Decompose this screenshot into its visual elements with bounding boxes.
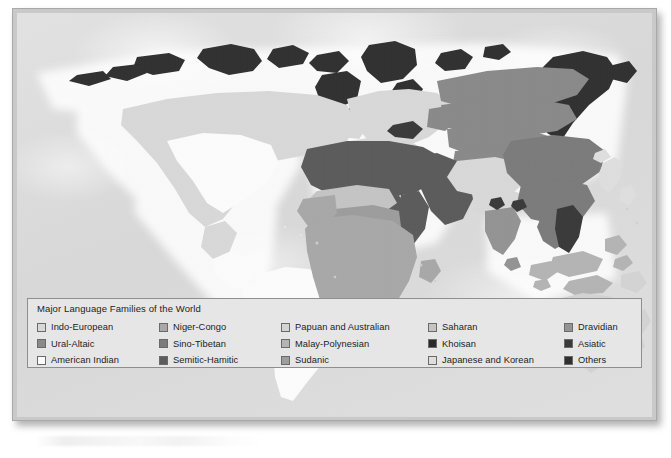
legend-column-4: Saharan Khoisan Japanese and Korean [428,319,534,369]
legend-label: Asiatic [578,339,606,349]
legend-label: Others [578,355,606,365]
legend-item-japanese-and-korean[interactable]: Japanese and Korean [428,352,534,369]
legend-label: Sino-Tibetan [173,339,226,349]
legend-item-papuan-and-australian[interactable]: Papuan and Australian [281,319,390,336]
map-legend: Major Language Families of the World Ind… [27,298,642,368]
legend-item-american-indian[interactable]: American Indian [37,352,119,369]
legend-item-semitic-hamitic[interactable]: Semitic-Hamitic [159,352,238,369]
legend-swatch-icon [159,323,168,332]
legend-item-niger-congo[interactable]: Niger-Congo [159,319,238,336]
legend-label: Semitic-Hamitic [173,355,238,365]
legend-swatch-icon [159,339,168,348]
legend-swatch-icon [428,323,437,332]
legend-column-5: Dravidian Asiatic Others [564,319,618,369]
legend-label: Dravidian [578,322,618,332]
legend-item-ural-altaic[interactable]: Ural-Altaic [37,336,119,353]
legend-title: Major Language Families of the World [37,303,201,314]
region-japan-korea [593,149,637,205]
legend-column-1: Indo-European Ural-Altaic American India… [37,319,119,369]
caption-smudge [36,436,266,446]
legend-label: Japanese and Korean [442,355,534,365]
legend-item-others[interactable]: Others [564,352,618,369]
legend-item-saharan[interactable]: Saharan [428,319,534,336]
legend-swatch-icon [37,323,46,332]
legend-column-3: Papuan and Australian Malay-Polynesian S… [281,319,390,369]
legend-swatch-icon [37,339,46,348]
legend-swatch-icon [281,323,290,332]
legend-label: Ural-Altaic [51,339,94,349]
legend-swatch-icon [159,356,168,365]
legend-item-sudanic[interactable]: Sudanic [281,352,390,369]
legend-label: Papuan and Australian [295,322,390,332]
legend-item-asiatic[interactable]: Asiatic [564,336,618,353]
legend-item-malay-polynesian[interactable]: Malay-Polynesian [281,336,390,353]
legend-swatch-icon [564,323,573,332]
legend-label: Saharan [442,322,478,332]
legend-label: Indo-European [51,322,113,332]
legend-swatch-icon [281,356,290,365]
legend-label: Malay-Polynesian [295,339,369,349]
legend-label: Sudanic [295,355,329,365]
legend-item-indo-european[interactable]: Indo-European [37,319,119,336]
legend-swatch-icon [564,356,573,365]
figure-frame: Major Language Families of the World Ind… [12,8,657,421]
legend-swatch-icon [281,339,290,348]
legend-item-sino-tibetan[interactable]: Sino-Tibetan [159,336,238,353]
legend-swatch-icon [564,339,573,348]
legend-item-dravidian[interactable]: Dravidian [564,319,618,336]
legend-label: American Indian [51,355,119,365]
legend-column-2: Niger-Congo Sino-Tibetan Semitic-Hamitic [159,319,238,369]
legend-swatch-icon [428,356,437,365]
page-canvas: Major Language Families of the World Ind… [0,0,671,458]
legend-swatch-icon [37,356,46,365]
world-map-plate: Major Language Families of the World Ind… [17,13,652,417]
legend-label: Khoisan [442,339,476,349]
legend-swatch-icon [428,339,437,348]
legend-item-khoisan[interactable]: Khoisan [428,336,534,353]
legend-label: Niger-Congo [173,322,226,332]
